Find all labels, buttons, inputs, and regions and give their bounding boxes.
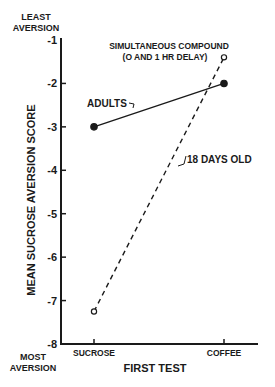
- y-bottom-label-line1: MOST: [20, 352, 47, 362]
- x-tick-label: SUCROSE: [73, 348, 115, 358]
- y-top-label-line1: LEAST: [21, 12, 51, 22]
- y-axis-label: MEAN SUCROSE AVERSION SCORE: [25, 104, 37, 295]
- y-top-label-line2: AVERSION: [13, 23, 59, 33]
- data-point-adults: [91, 124, 97, 130]
- x-axis-label: FIRST TEST: [124, 362, 187, 374]
- data-point-adults: [221, 80, 227, 86]
- data-point-18-days-old: [221, 55, 226, 60]
- y-bottom-label-line2: AVERSION: [10, 363, 56, 373]
- y-tick-label: -3: [47, 121, 57, 133]
- legend-label-adults: ADULTS: [87, 98, 127, 109]
- chart: -1-2-3-4-5-6-7-8 SUCROSECOFFEE LEAST AVE…: [0, 0, 275, 387]
- y-tick-label: -4: [47, 164, 58, 176]
- y-tick-label: -5: [47, 208, 57, 220]
- adults-leader-arrow: [129, 103, 134, 108]
- y-tick-label: -7: [47, 295, 57, 307]
- legend-label-18-days-old: 18 DAYS OLD: [187, 154, 252, 165]
- y-tick-label: -8: [47, 338, 57, 350]
- y-tick-label: -1: [47, 34, 57, 46]
- series-line-18-days-old: [94, 57, 224, 311]
- y-tick-label: -6: [47, 251, 57, 263]
- y-tick-label: -2: [47, 77, 57, 89]
- 18-days-leader-arrow: [178, 156, 186, 166]
- x-tick-label: COFFEE: [207, 348, 242, 358]
- annotation-line1: SIMULTANEOUS COMPOUND: [109, 41, 229, 51]
- annotation-line2: (O AND 1 HR DELAY): [123, 52, 208, 62]
- data-point-18-days-old: [91, 309, 96, 314]
